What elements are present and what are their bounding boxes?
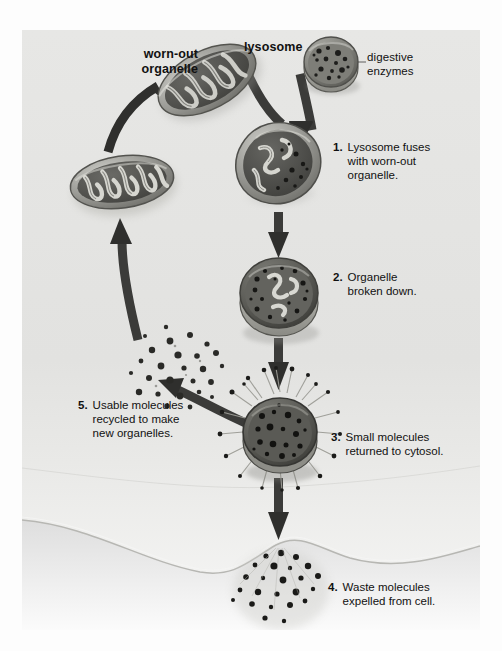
- fused-vesicle: [236, 123, 321, 204]
- step-5-text: Usable molecules recycled to make new or…: [93, 398, 184, 440]
- step-5: 5. Usable molecules recycled to make new…: [78, 398, 238, 440]
- step-1: 1. Lysosome fuses with worn-out organell…: [333, 140, 483, 182]
- step-2: 2. Organelle broken down.: [333, 270, 483, 298]
- digested-vesicle: [240, 258, 319, 344]
- step-2-number: 2.: [333, 270, 343, 298]
- step-1-text: Lysosome fuses with worn-out organelle.: [348, 140, 431, 182]
- label-lysosome: lysosome: [244, 40, 302, 55]
- label-digestive-enzymes: digestive enzymes: [367, 50, 463, 78]
- arrow-fusion-to-digestion: [268, 212, 289, 258]
- label-worn-out-organelle: worn-out organelle: [106, 47, 198, 78]
- step-5-number: 5.: [78, 398, 88, 440]
- step-4-number: 4.: [328, 580, 338, 608]
- diagram-artwork: [0, 0, 502, 651]
- step-3-number: 3.: [331, 430, 341, 458]
- step-3-text: Small molecules returned to cytosol.: [346, 430, 444, 458]
- arrow-molecules-to-new-organelle: [110, 218, 138, 340]
- step-3: 3. Small molecules returned to cytosol.: [331, 430, 491, 458]
- step-4: 4. Waste molecules expelled from cell.: [328, 580, 493, 608]
- lysosome-digestion-figure: worn-out organelle lysosome digestive en…: [0, 0, 502, 651]
- step-4-text: Waste molecules expelled from cell.: [343, 580, 436, 608]
- recycled-molecule-cloud: [129, 325, 224, 410]
- step-2-text: Organelle broken down.: [348, 270, 417, 298]
- lysosome-vesicle: [304, 37, 360, 95]
- new-mitochondrion: [67, 149, 180, 223]
- step-1-number: 1.: [333, 140, 343, 182]
